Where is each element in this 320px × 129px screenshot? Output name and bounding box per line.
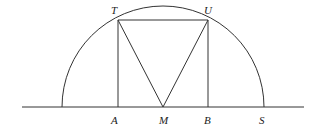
segment-tm: [118, 20, 163, 107]
semicircle-arc: [62, 6, 264, 107]
label-u: U: [204, 4, 213, 16]
label-b: B: [204, 114, 211, 126]
geometry-diagram: T U A M B S: [0, 0, 320, 129]
label-a: A: [110, 114, 118, 126]
segment-um: [163, 20, 208, 107]
label-s: S: [259, 114, 265, 126]
label-t: T: [111, 4, 118, 16]
label-m: M: [158, 114, 169, 126]
